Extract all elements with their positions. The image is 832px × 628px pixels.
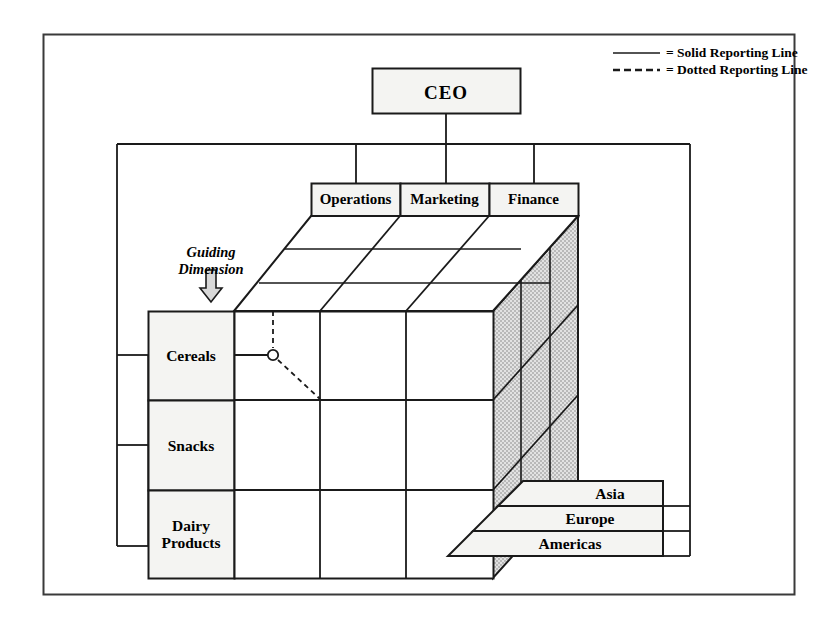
function-label-marketing: Marketing bbox=[400, 191, 489, 208]
legend-solid-label: = Solid Reporting Line bbox=[666, 45, 798, 61]
region-label-asia: Asia bbox=[560, 485, 660, 502]
product-label-dairy-line2: Products bbox=[148, 534, 234, 551]
region-label-americas: Americas bbox=[515, 535, 625, 552]
function-label-finance: Finance bbox=[489, 191, 578, 208]
guiding-dimension-line1: Guiding bbox=[141, 244, 281, 261]
reporting-node-circle[interactable] bbox=[268, 350, 278, 360]
legend-dotted-label: = Dotted Reporting Line bbox=[666, 62, 808, 78]
ceo-label: CEO bbox=[372, 82, 520, 103]
guiding-dimension-label: Guiding Dimension bbox=[141, 244, 281, 277]
region-label-europe: Europe bbox=[540, 510, 640, 527]
product-label-dairy-products: Dairy Products bbox=[148, 517, 234, 552]
diagram-canvas: CEO = Solid Reporting Line = Dotted Repo… bbox=[0, 0, 832, 628]
product-label-dairy-line1: Dairy bbox=[148, 517, 234, 534]
product-label-snacks: Snacks bbox=[148, 437, 234, 454]
product-label-cereals: Cereals bbox=[148, 347, 234, 364]
function-label-operations: Operations bbox=[311, 191, 400, 208]
guiding-dimension-line2: Dimension bbox=[141, 261, 281, 278]
